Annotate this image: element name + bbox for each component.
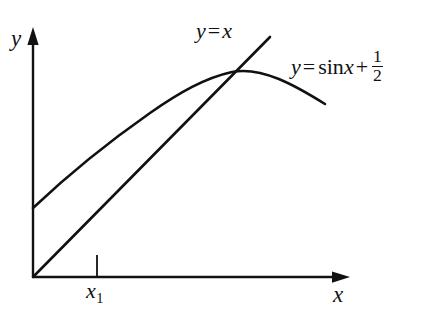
identity-label-lhs: y: [196, 18, 206, 43]
identity-label-rhs: x: [222, 18, 232, 43]
sine-label-function: sin: [318, 56, 344, 78]
sine-label-argument: x: [344, 56, 354, 78]
tick-label-subscript: 1: [96, 290, 103, 306]
y-axis-arrowhead: [27, 27, 38, 45]
identity-label-equals: =: [206, 18, 222, 43]
fraction-denominator: 2: [372, 67, 383, 85]
fraction-numerator: 1: [372, 48, 383, 66]
x-axis-tick-label-x1: x1: [86, 280, 104, 305]
y-axis-label: y: [11, 27, 21, 50]
x-axis-label: x: [333, 283, 343, 306]
sine-curve-label: y=sinx+12: [291, 49, 383, 86]
identity-line-label: y=x: [196, 20, 232, 42]
sine-curve: [33, 71, 325, 208]
sine-label-equals: =: [301, 56, 317, 78]
sine-label-plus: +: [354, 56, 370, 78]
sine-label-lhs: y: [291, 56, 301, 78]
one-half-fraction: 12: [372, 48, 383, 85]
math-figure: y x x1 y=x y=sinx+12: [0, 0, 440, 320]
identity-line: [33, 37, 270, 277]
tick-label-base: x: [86, 278, 96, 303]
